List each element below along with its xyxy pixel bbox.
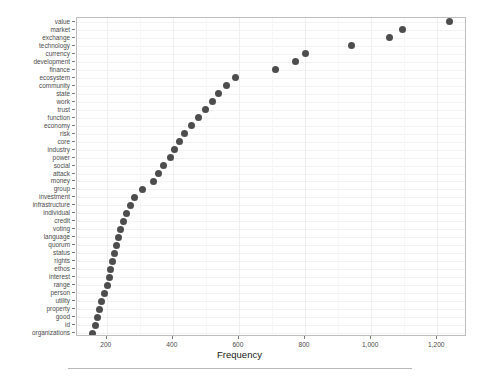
data-point	[348, 42, 355, 49]
x-axis-tick-label: 1,000	[362, 341, 379, 348]
gridline-horizontal	[77, 293, 465, 294]
y-axis-tick-mark	[72, 196, 75, 197]
y-axis-tick-label: infrastructure	[33, 201, 70, 208]
y-axis-tick-label: development	[33, 57, 70, 64]
x-axis-tick-label: 1,200	[428, 341, 445, 348]
y-axis-tick-mark	[72, 53, 75, 54]
y-axis-tick-label: technology	[39, 41, 70, 48]
y-axis-tick-mark	[72, 308, 75, 309]
x-axis-tick-mark	[238, 336, 239, 339]
gridline-horizontal	[77, 213, 465, 214]
gridline-horizontal	[77, 181, 465, 182]
y-axis-tick-label: trust	[58, 105, 70, 112]
y-axis-tick-mark	[72, 157, 75, 158]
y-axis-tick-label: risk	[60, 129, 70, 136]
y-axis-tick-mark	[72, 21, 75, 22]
y-axis-tick-label: power	[53, 153, 70, 160]
gridline-horizontal	[77, 118, 465, 119]
y-axis-tick-mark	[72, 292, 75, 293]
plot-panel	[76, 17, 466, 336]
gridline-horizontal	[77, 301, 465, 302]
footer-divider	[68, 368, 412, 369]
x-axis-tick-mark	[436, 336, 437, 339]
data-point	[127, 202, 134, 209]
y-axis-tick-mark	[72, 61, 75, 62]
y-axis-tick-mark	[72, 228, 75, 229]
y-axis-tick-mark	[72, 324, 75, 325]
gridline-horizontal	[77, 237, 465, 238]
y-axis-tick-label: ecosystem	[39, 73, 70, 80]
y-axis-tick-label: ethos	[54, 265, 70, 272]
data-point	[117, 226, 124, 233]
gridline-vertical-minor	[338, 18, 339, 335]
x-axis-tick-label: 200	[100, 341, 111, 348]
gridline-horizontal	[77, 22, 465, 23]
y-axis-tick-mark	[72, 69, 75, 70]
data-point	[386, 34, 393, 41]
x-axis-tick-mark	[304, 336, 305, 339]
gridline-horizontal	[77, 62, 465, 63]
gridline-horizontal	[77, 261, 465, 262]
data-point	[272, 66, 279, 73]
data-point	[92, 322, 99, 329]
gridline-horizontal	[77, 189, 465, 190]
y-axis-tick-label: good	[56, 313, 70, 320]
y-axis-tick-label: industry	[48, 145, 70, 152]
data-point	[113, 242, 120, 249]
gridline-horizontal	[77, 166, 465, 167]
y-axis-tick-mark	[72, 252, 75, 253]
gridline-vertical-minor	[140, 18, 141, 335]
data-point	[150, 178, 157, 185]
gridline-vertical-minor	[404, 18, 405, 335]
gridline-horizontal	[77, 269, 465, 270]
gridline-horizontal	[77, 317, 465, 318]
gridline-horizontal	[77, 46, 465, 47]
y-axis-tick-mark	[72, 316, 75, 317]
data-point	[188, 122, 195, 129]
y-axis-tick-label: group	[54, 185, 70, 192]
y-axis-tick-mark	[72, 236, 75, 237]
y-axis-tick-label: state	[56, 89, 70, 96]
data-point	[123, 210, 130, 217]
gridline-horizontal	[77, 285, 465, 286]
y-axis-tick-label: language	[44, 233, 70, 240]
data-point	[176, 138, 183, 145]
y-axis-tick-mark	[72, 149, 75, 150]
y-axis-tick-label: voting	[53, 225, 70, 232]
data-point	[131, 194, 138, 201]
data-point	[98, 298, 105, 305]
data-point	[89, 330, 96, 337]
gridline-horizontal	[77, 325, 465, 326]
data-point	[209, 98, 216, 105]
y-axis-tick-label: range	[54, 281, 70, 288]
x-axis-tick-mark	[172, 336, 173, 339]
y-axis-tick-label: utility	[55, 297, 70, 304]
gridline-horizontal	[77, 158, 465, 159]
y-axis-tick-mark	[72, 141, 75, 142]
gridline-horizontal	[77, 150, 465, 151]
x-axis-tick-label: 800	[299, 341, 310, 348]
y-axis-tick-mark	[72, 188, 75, 189]
y-axis-tick-mark	[72, 101, 75, 102]
y-axis-tick-mark	[72, 260, 75, 261]
data-point	[202, 106, 209, 113]
gridline-horizontal	[77, 94, 465, 95]
data-point	[96, 306, 103, 313]
y-axis-tick-mark	[72, 332, 75, 333]
data-point	[155, 170, 162, 177]
y-axis-tick-label: quorum	[48, 241, 70, 248]
data-point	[106, 274, 113, 281]
y-axis-tick-label: rights	[54, 257, 70, 264]
data-point	[292, 58, 299, 65]
gridline-horizontal	[77, 229, 465, 230]
y-axis-tick-mark	[72, 173, 75, 174]
data-point	[107, 266, 114, 273]
data-point	[167, 154, 174, 161]
y-axis-tick-mark	[72, 180, 75, 181]
data-point	[223, 82, 230, 89]
y-axis-tick-mark	[72, 29, 75, 30]
gridline-horizontal	[77, 54, 465, 55]
y-axis-tick-label: organizations	[32, 329, 70, 336]
y-axis-tick-label: property	[47, 305, 70, 312]
y-axis-tick-label: currency	[45, 49, 70, 56]
